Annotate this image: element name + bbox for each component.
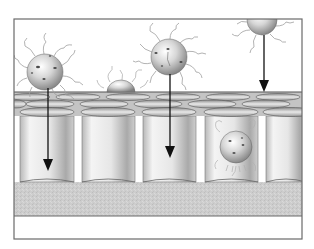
cell-column [266, 116, 306, 182]
cell-column [20, 116, 74, 182]
diagram-canvas [0, 0, 314, 249]
membrane-layer [6, 92, 314, 117]
cell-column [82, 116, 135, 182]
base-layer [14, 182, 302, 216]
